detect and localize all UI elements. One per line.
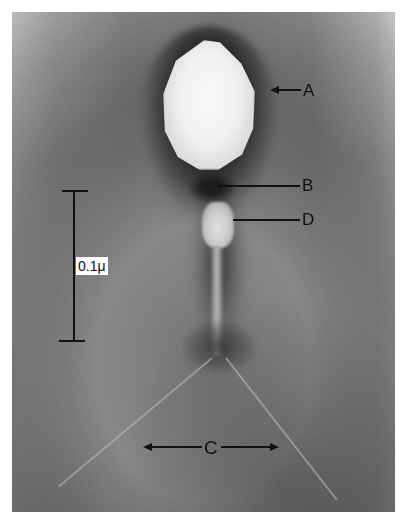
label-d-pointer (233, 219, 300, 221)
label-c: C (204, 438, 218, 457)
label-c-left-line (150, 446, 202, 448)
tail-core (202, 202, 234, 248)
scale-bar-bottom-cap (59, 340, 85, 342)
label-b-pointer (218, 185, 300, 187)
label-d: D (302, 211, 314, 228)
scale-bar-label: 0.1μ (76, 257, 108, 275)
label-c-right-arrowhead (270, 443, 279, 451)
collar (190, 172, 234, 202)
label-c-right-line (221, 446, 271, 448)
label-a: A (303, 82, 314, 99)
baseplate (184, 322, 254, 372)
scale-bar-top-cap (62, 190, 88, 192)
scale-bar (73, 190, 75, 341)
label-b: B (302, 177, 313, 194)
label-a-pointer (277, 89, 301, 91)
